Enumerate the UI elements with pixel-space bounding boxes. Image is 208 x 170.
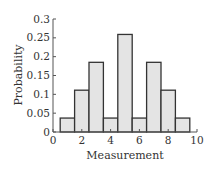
- x-tick-label: 0: [50, 134, 57, 146]
- y-tick-label: 0.05: [27, 107, 50, 119]
- x-tick-label: 8: [165, 134, 172, 146]
- bar-7: [147, 62, 161, 132]
- bar-1: [60, 118, 74, 132]
- bar-8: [161, 90, 175, 132]
- y-tick-label: 0.2: [33, 50, 50, 62]
- histogram-chart: 00.050.10.150.20.250.3 0246810 Measureme…: [0, 0, 208, 170]
- y-tick-label: 0.3: [33, 13, 50, 25]
- bar-9: [175, 118, 189, 132]
- y-ticks: 00.050.10.150.20.250.3: [27, 13, 56, 138]
- y-tick-label: 0.15: [27, 69, 50, 81]
- x-axis-label: Measurement: [86, 149, 164, 162]
- y-tick-label: 0.25: [27, 31, 50, 43]
- x-tick-label: 4: [107, 134, 114, 146]
- x-tick-label: 10: [190, 134, 203, 146]
- bars: [60, 34, 190, 132]
- y-tick-label: 0.1: [33, 88, 50, 100]
- bar-3: [89, 62, 103, 132]
- bar-2: [75, 90, 89, 132]
- bar-5: [118, 34, 132, 132]
- x-tick-label: 6: [136, 134, 143, 146]
- x-tick-label: 2: [78, 134, 85, 146]
- y-axis-label: Probability: [12, 44, 25, 106]
